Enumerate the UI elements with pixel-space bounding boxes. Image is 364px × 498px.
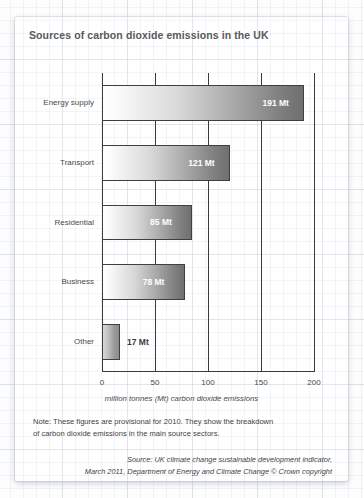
- x-tick-label-150: 150: [241, 378, 281, 387]
- x-tick-100: [208, 73, 209, 78]
- chart-source-line-1: Source: UK climate change sustainable de…: [33, 454, 332, 466]
- chart-note: Note: These figures are provisional for …: [33, 416, 332, 439]
- x-tick-0: [102, 73, 103, 78]
- category-label-residential: Residential: [25, 218, 94, 227]
- bar-value-label: 121 Mt: [188, 158, 214, 168]
- chart-note-line-2: of carbon dioxide emissions in the main …: [33, 428, 332, 440]
- gridline-200: [314, 73, 315, 372]
- bar-value-label: 191 Mt: [262, 98, 288, 108]
- bar-row: 17 Mt: [102, 324, 314, 360]
- x-axis-title: million tonnes (Mt) carbon dioxide emiss…: [15, 394, 348, 403]
- chart-note-line-1: Note: These figures are provisional for …: [33, 416, 332, 428]
- x-tick-label-200: 200: [294, 378, 334, 387]
- bar-value-label: 78 Mt: [143, 277, 165, 287]
- bar-residential[interactable]: [102, 205, 192, 241]
- bar-row: 85 Mt: [102, 205, 314, 241]
- chart-source-line-2: March 2011, Department of Energy and Cli…: [33, 466, 332, 478]
- x-tick-150: [261, 73, 262, 78]
- x-tick-50: [155, 73, 156, 78]
- x-tick-200: [314, 73, 315, 78]
- chart-source: Source: UK climate change sustainable de…: [33, 454, 332, 477]
- chart-title: Sources of carbon dioxide emissions in t…: [29, 29, 269, 41]
- bar-value-label: 85 Mt: [150, 217, 172, 227]
- bar-row: 191 Mt: [102, 85, 314, 121]
- x-tick-label-100: 100: [188, 378, 228, 387]
- category-label-energy-supply: Energy supply: [25, 98, 94, 107]
- bar-row: 121 Mt: [102, 145, 314, 181]
- bar-chart-plot-area: 191 Mt121 Mt85 Mt78 Mt17 Mt: [102, 73, 314, 372]
- bar-value-label: 17 Mt: [127, 337, 149, 347]
- category-label-transport: Transport: [25, 158, 94, 167]
- category-label-business: Business: [25, 277, 94, 286]
- x-tick-label-50: 50: [135, 378, 175, 387]
- chart-card: Sources of carbon dioxide emissions in t…: [15, 17, 348, 481]
- x-tick-label-0: 0: [82, 378, 122, 387]
- bar-other[interactable]: [102, 324, 120, 360]
- category-label-other: Other: [25, 337, 94, 346]
- bar-row: 78 Mt: [102, 264, 314, 300]
